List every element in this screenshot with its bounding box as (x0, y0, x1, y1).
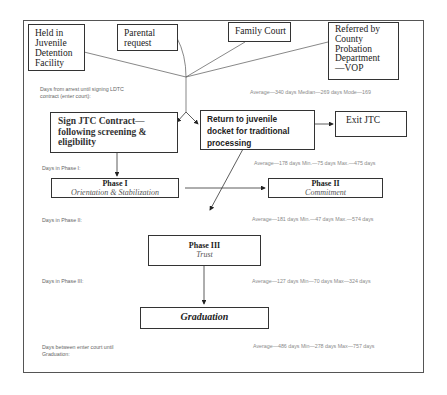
source-family-court-box: Family Court (228, 22, 291, 42)
stat-label-line: Days in Phase III: (42, 278, 84, 285)
stat-values-phase2: Average—181 days Min.—47 days Max.—574 d… (252, 216, 374, 223)
source-line: Held in (35, 28, 84, 38)
phase-subtitle: Commitment (269, 189, 382, 198)
return-to-juvenile-docket-box: Return to juvenile docket for traditiona… (200, 110, 315, 150)
stage-line: processing (207, 137, 314, 149)
stat-label-arrest-to-contract: Days from arrest until signing LDTC cont… (40, 86, 124, 100)
source-line: —VOP (335, 64, 398, 74)
stat-label-line: contract (enter court): (40, 93, 124, 100)
graduation-box: Graduation (140, 307, 269, 329)
exit-jtc-box: Exit JTC (335, 111, 407, 137)
stat-label-line: Days in Phase I: (42, 165, 81, 172)
phase-title: Phase III (149, 241, 260, 250)
stat-label-line: Days from arrest until signing LDTC (40, 86, 124, 93)
jtc-process-flowchart: Held in Juvenile Detention Facility Pare… (0, 0, 447, 395)
phase1-box: Phase I Orientation & Stabilization (51, 178, 179, 198)
stage-line: eligibility (58, 137, 177, 148)
sign-jtc-contract-box: Sign JTC Contract— following screening &… (50, 112, 178, 153)
stage-line: Return to juvenile (207, 113, 314, 125)
source-line: Parental (124, 28, 177, 38)
stat-values-arrest-to-contract: Average—340 days Median—269 days Mode—16… (250, 89, 371, 96)
stage-line: docket for traditional (207, 125, 314, 137)
source-line: Juvenile (35, 38, 84, 48)
source-line: Facility (35, 58, 84, 68)
graduation-label: Graduation (141, 308, 268, 326)
source-line: request (124, 38, 177, 48)
source-probation-box: Referred by County Probation Department … (328, 22, 399, 80)
phase-subtitle: Trust (149, 250, 260, 259)
stage-line: following screening & (58, 127, 177, 138)
phase-subtitle: Orientation & Stabilization (52, 189, 178, 198)
stat-values-total-to-graduation: Average—486 days Min—278 days Max—757 da… (253, 343, 375, 350)
stat-values-phase1: Average—178 days Min.—75 days Max.—475 d… (254, 160, 376, 167)
source-line: Family Court (235, 26, 290, 36)
stat-label-line: Graduation: (42, 351, 114, 358)
stat-label-line: Days between enter court until (42, 344, 114, 351)
stat-label-total-to-graduation: Days between enter court until Graduatio… (42, 344, 114, 358)
stat-label-phase2: Days in Phase II: (42, 217, 82, 224)
source-parental-request-box: Parental request (117, 24, 178, 51)
source-line: Detention (35, 48, 84, 58)
stat-label-phase3: Days in Phase III: (42, 278, 84, 285)
phase3-box: Phase III Trust (148, 235, 261, 266)
source-juvenile-detention-box: Held in Juvenile Detention Facility (28, 24, 85, 71)
stat-label-line: Days in Phase II: (42, 217, 82, 224)
phase2-box: Phase II Commitment (268, 178, 383, 198)
stat-values-phase3: Average—127 days Min—70 days Max—324 day… (252, 278, 371, 285)
stage-line: Sign JTC Contract— (58, 116, 177, 127)
stat-label-phase1: Days in Phase I: (42, 165, 81, 172)
stage-line: Exit JTC (346, 115, 406, 125)
